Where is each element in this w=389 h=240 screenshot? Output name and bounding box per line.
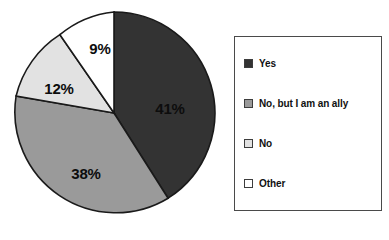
legend-item-yes[interactable]: Yes — [244, 56, 381, 72]
legend-label-other: Other — [259, 178, 285, 189]
legend-list: Yes No, but I am an ally No Other — [235, 37, 381, 210]
pie-svg: 41% 38% 12% 9% — [12, 8, 218, 220]
legend: Yes No, but I am an ally No Other — [234, 36, 382, 211]
pie-chart-area: 41% 38% 12% 9% — [12, 8, 218, 220]
legend-item-other[interactable]: Other — [244, 175, 381, 191]
legend-item-no[interactable]: No — [244, 135, 381, 151]
legend-item-no-but-ally[interactable]: No, but I am an ally — [244, 96, 381, 112]
legend-label-yes: Yes — [259, 58, 276, 69]
legend-label-no: No — [259, 138, 272, 149]
legend-swatch-icon-yes — [244, 59, 253, 68]
legend-label-no-but-ally: No, but I am an ally — [259, 98, 348, 109]
legend-swatch-icon-other — [244, 179, 253, 188]
pie-label-no: 12% — [44, 80, 73, 97]
pie-label-yes: 41% — [155, 100, 184, 117]
legend-swatch-icon-no — [244, 139, 253, 148]
pie-label-no-but-ally: 38% — [71, 165, 100, 182]
pie-chart-figure: 41% 38% 12% 9% Yes No, but I am an ally … — [0, 0, 389, 240]
pie-label-other: 9% — [89, 40, 110, 57]
legend-swatch-icon-no-but-ally — [244, 99, 253, 108]
